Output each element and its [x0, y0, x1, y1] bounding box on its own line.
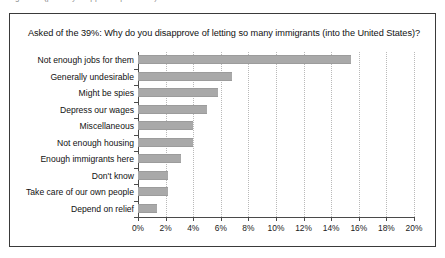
y-axis-tick	[134, 201, 138, 202]
category-label: Generally undesirable	[50, 72, 134, 82]
bar-row[interactable]	[138, 168, 414, 185]
bar[interactable]	[138, 88, 218, 97]
bar[interactable]	[138, 55, 351, 64]
x-axis-tick-label: 6%	[215, 223, 227, 233]
bar-row[interactable]	[138, 69, 414, 86]
bar-row[interactable]	[138, 85, 414, 102]
y-axis-tick	[134, 118, 138, 119]
y-axis-tick	[134, 102, 138, 103]
y-axis-tick	[134, 168, 138, 169]
x-axis-tick-0%	[138, 217, 139, 221]
bar[interactable]	[138, 154, 181, 163]
category-label: Enough immigrants here	[40, 154, 134, 164]
y-axis-tick	[134, 151, 138, 152]
category-label: Might be spies	[79, 88, 134, 98]
cropped-caption-sliver: Figure ... (partially cropped caption li…	[0, 0, 445, 7]
plot-area	[138, 52, 414, 217]
y-axis-tick	[134, 135, 138, 136]
category-label: Not enough housing	[57, 138, 134, 148]
bar-row[interactable]	[138, 52, 414, 69]
category-label: Miscellaneous	[80, 121, 134, 131]
x-axis-tick-label: 0%	[132, 223, 144, 233]
chart-title: Asked of the 39%: Why do you disapprove …	[28, 27, 428, 39]
x-axis-tick-18%	[386, 217, 387, 221]
bar-row[interactable]	[138, 184, 414, 201]
bar[interactable]	[138, 121, 193, 130]
x-axis-tick-14%	[331, 217, 332, 221]
category-axis-labels: Not enough jobs for themGenerally undesi…	[24, 52, 134, 217]
category-label: Take care of our own people	[26, 187, 134, 197]
x-axis-tick-label: 16%	[350, 223, 367, 233]
x-axis-tick-4%	[193, 217, 194, 221]
bar[interactable]	[138, 204, 157, 213]
figure-frame: Asked of the 39%: Why do you disapprove …	[9, 13, 436, 247]
x-axis-tick-20%	[414, 217, 415, 221]
y-axis-tick	[134, 85, 138, 86]
bar-row[interactable]	[138, 118, 414, 135]
bar[interactable]	[138, 171, 168, 180]
category-label: Not enough jobs for them	[38, 55, 135, 65]
x-axis-tick-label: 12%	[295, 223, 312, 233]
gridline-x-20%	[414, 52, 415, 217]
cropped-caption-text: Figure ... (partially cropped caption li…	[8, 0, 157, 2]
x-axis-tick-label: 8%	[242, 223, 254, 233]
bar[interactable]	[138, 138, 193, 147]
y-axis-tick	[134, 217, 138, 218]
bar-row[interactable]	[138, 102, 414, 119]
x-axis-tick-label: 10%	[268, 223, 285, 233]
bar[interactable]	[138, 72, 232, 81]
bar-row[interactable]	[138, 135, 414, 152]
bar-row[interactable]	[138, 201, 414, 218]
bar-row[interactable]	[138, 151, 414, 168]
category-label: Depress our wages	[60, 105, 134, 115]
x-axis-tick-2%	[166, 217, 167, 221]
x-axis-tick-16%	[359, 217, 360, 221]
bar[interactable]	[138, 105, 207, 114]
x-axis-tick-label: 2%	[160, 223, 172, 233]
x-axis-tick-8%	[248, 217, 249, 221]
x-axis-tick-label: 20%	[406, 223, 423, 233]
category-label: Depend on relief	[71, 204, 134, 214]
x-axis-tick-label: 14%	[323, 223, 340, 233]
x-axis-tick-10%	[276, 217, 277, 221]
x-axis-tick-6%	[221, 217, 222, 221]
y-axis-tick	[134, 184, 138, 185]
bar[interactable]	[138, 187, 168, 196]
x-axis-tick-label: 18%	[378, 223, 395, 233]
x-axis-tick-label: 4%	[187, 223, 199, 233]
y-axis-tick	[134, 69, 138, 70]
category-label: Don't know	[92, 171, 134, 181]
x-axis-tick-12%	[304, 217, 305, 221]
